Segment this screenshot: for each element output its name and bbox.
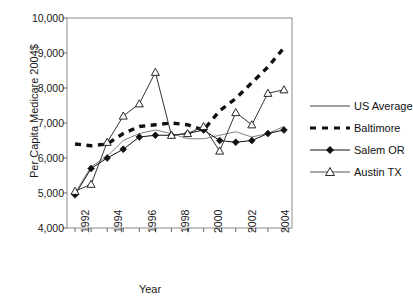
legend-item-baltimore[interactable]: Baltimore	[309, 117, 413, 139]
legend-key-austin-tx	[309, 165, 351, 179]
marker-diamond	[264, 130, 271, 137]
marker-triangle	[151, 68, 159, 75]
data-series-group	[71, 48, 288, 198]
marker-triangle	[135, 100, 143, 107]
legend-label-baltimore: Baltimore	[354, 122, 400, 134]
legend-key-salem-or	[309, 143, 351, 157]
y-axis-tick-labels: 10,000 9,000 8,000 7,000 6,000 5,000 4,0…	[0, 0, 64, 307]
marker-diamond	[232, 139, 239, 146]
marker-diamond	[104, 155, 111, 162]
marker-diamond	[216, 137, 223, 144]
marker-triangle	[216, 147, 224, 154]
x-tick-label: 1998	[179, 210, 191, 233]
legend: US Average Baltimore Salem OR	[309, 95, 413, 183]
y-tick-label: 4,000	[38, 222, 64, 234]
legend-item-us-average[interactable]: US Average	[309, 95, 413, 117]
legend-label-us-average: US Average	[354, 100, 413, 112]
legend-item-salem-or[interactable]: Salem OR	[309, 139, 413, 161]
x-tick-label: 1994	[112, 210, 124, 233]
marker-triangle	[232, 109, 240, 116]
x-tick-label: 1992	[79, 210, 91, 233]
legend-label-salem-or: Salem OR	[354, 144, 405, 156]
y-tick-label: 5,000	[38, 187, 64, 199]
x-tick-label: 1996	[146, 210, 158, 233]
marker-triangle	[119, 112, 127, 119]
legend-label-austin-tx: Austin TX	[354, 166, 402, 178]
marker-diamond	[152, 132, 159, 139]
legend-item-austin-tx[interactable]: Austin TX	[309, 161, 413, 183]
x-tick-label: 2000	[212, 210, 224, 233]
y-tick-label: 10,000	[32, 12, 64, 24]
y-tick-label: 7,000	[38, 117, 64, 129]
marker-diamond	[248, 137, 255, 144]
series-line-baltimore	[75, 48, 284, 146]
marker-triangle	[87, 180, 95, 187]
x-tick-label: 2002	[246, 210, 258, 233]
y-tick-label: 6,000	[38, 152, 64, 164]
marker-triangle	[248, 121, 256, 128]
legend-key-baltimore	[309, 121, 351, 135]
y-tick-label: 9,000	[38, 47, 64, 59]
series-line-austin-tx	[75, 72, 284, 191]
y-tick-label: 8,000	[38, 82, 64, 94]
marker-triangle	[280, 86, 288, 93]
legend-key-us-average	[309, 99, 351, 113]
x-tick-label: 2004	[279, 210, 291, 233]
